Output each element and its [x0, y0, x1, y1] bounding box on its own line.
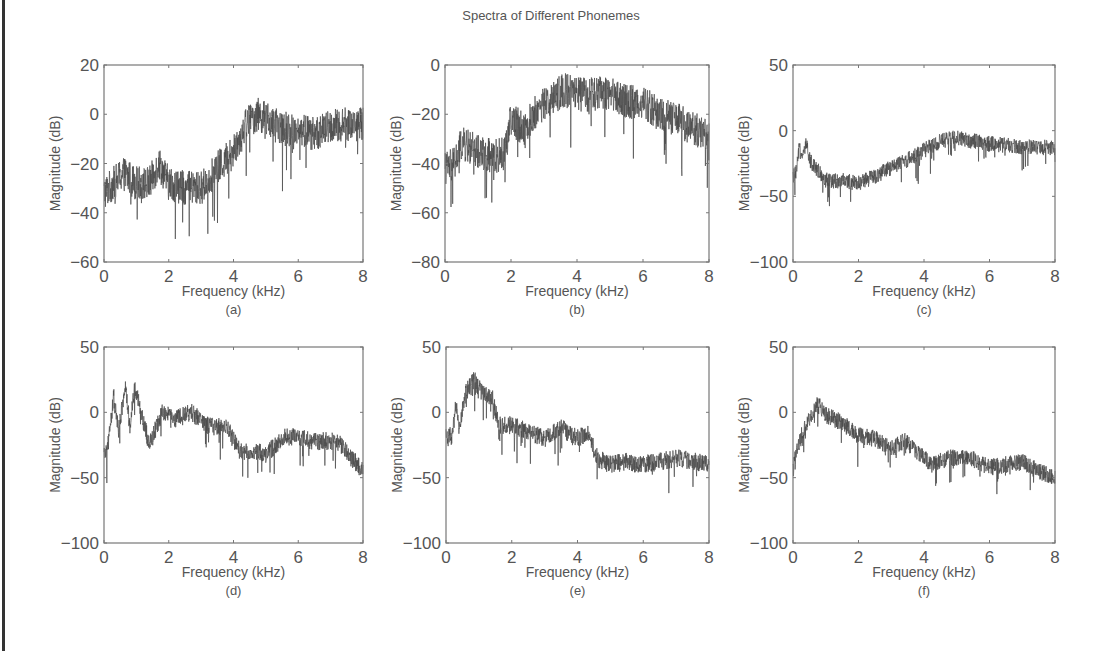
axes-frame [793, 347, 1055, 543]
y-tick-label: −50 [759, 469, 788, 488]
spectrum-line [793, 397, 1055, 494]
x-tick-label: 8 [1050, 548, 1059, 567]
y-tick-label: 0 [779, 403, 788, 422]
x-tick-label: 2 [854, 548, 863, 567]
spectrum-chart-f: 02468500−50−100Frequency (kHz)Magnitude … [0, 0, 1102, 651]
y-axis-label: Magnitude (dB) [736, 397, 752, 493]
y-tick-label: 50 [769, 338, 788, 357]
y-tick-label: −100 [750, 534, 788, 553]
x-axis-label: Frequency (kHz) [872, 564, 975, 580]
x-tick-label: 6 [985, 548, 994, 567]
x-tick-label: 0 [788, 548, 797, 567]
panel-label: (f) [918, 583, 930, 598]
